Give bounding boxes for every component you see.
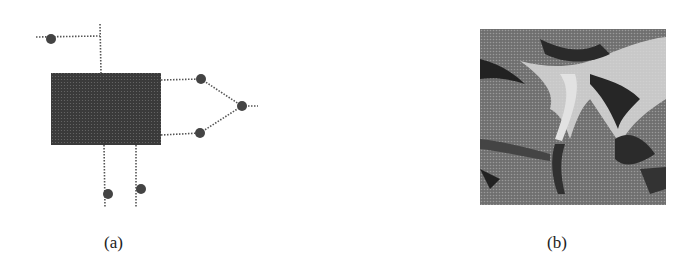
node-icon [237,101,247,111]
top-vertical-line [100,24,101,73]
lower-right-line [161,133,200,135]
panel-b-halftone-image [480,29,666,205]
lower-diagonal-line [200,106,242,133]
panel-b-label: (b) [547,233,567,253]
node-icon [196,74,206,84]
bottom-left-line [104,145,105,208]
node-icon [136,184,146,194]
top-horizontal-line [36,36,100,37]
node-icon [195,128,205,138]
panel-a-diagram [0,0,300,230]
panel-a-label: (a) [104,233,123,253]
node-icon [46,34,56,44]
node-icon [103,189,113,199]
upper-diagonal-line [201,79,242,106]
upper-right-line [161,79,201,80]
block [51,73,161,145]
